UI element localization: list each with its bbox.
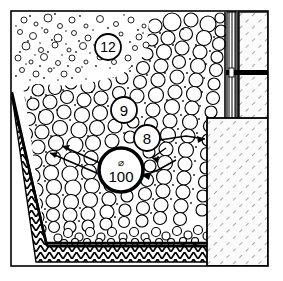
diameter-symbol: ⌀ <box>118 157 124 168</box>
construction-detail-drawing: 12 9 8 ⌀ 100 <box>0 0 283 281</box>
callout-8-label: 8 <box>143 130 151 147</box>
callout-8[interactable]: 8 <box>134 125 160 151</box>
callout-100-label: 100 <box>108 168 133 185</box>
callout-12-label: 12 <box>100 39 116 55</box>
concrete-wall <box>239 12 268 120</box>
callout-9[interactable]: 9 <box>111 97 137 123</box>
concrete-slab <box>207 118 268 266</box>
wall-membrane-strip <box>225 12 238 120</box>
callout-12[interactable]: 12 <box>95 34 121 60</box>
callout-9-label: 9 <box>120 102 128 119</box>
detail-drawing-canvas: 12 9 8 ⌀ 100 <box>0 0 283 281</box>
callout-100[interactable]: ⌀ 100 <box>99 148 143 192</box>
